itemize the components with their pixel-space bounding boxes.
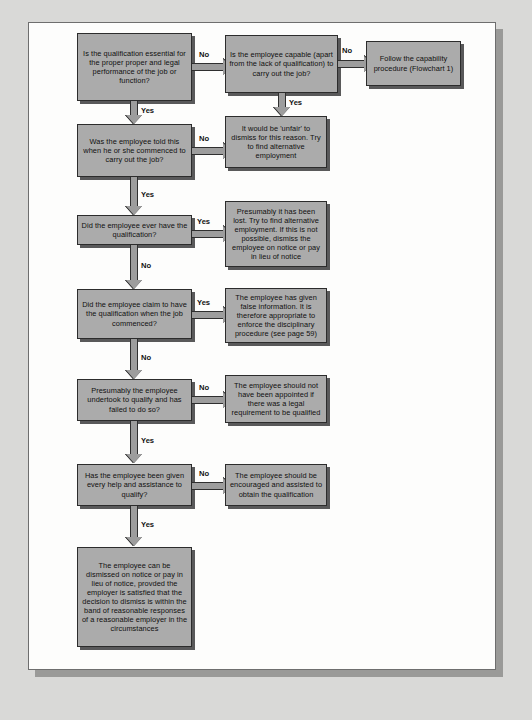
edge-label-q4-o4: Yes	[197, 298, 210, 307]
node-o4: The employee has given false information…	[225, 288, 327, 343]
node-o1: Follow the capability procedure (Flowcha…	[366, 41, 461, 86]
node-q1b-label: Is the employee capable (apart from the …	[229, 50, 334, 77]
edge-q4-o4-shaft	[192, 311, 224, 319]
edge-q5-o5-shaft	[192, 396, 224, 404]
node-o5: The employee should not have been appoin…	[225, 375, 327, 423]
node-q2: Was the employee told this when he or sh…	[77, 124, 192, 177]
edge-label-q2-q3: Yes	[141, 190, 154, 199]
node-q1: Is the qualification essential for the p…	[77, 33, 192, 101]
edge-q3-q4-head	[126, 280, 142, 289]
edge-label-q6-o6: No	[199, 469, 209, 478]
edge-label-q3-q4: No	[141, 261, 151, 270]
node-o6: The employee should be encouraged and as…	[225, 464, 327, 506]
node-o5-label: The employee should not have been appoin…	[229, 381, 323, 417]
node-q3: Did the employee ever have the qualifica…	[77, 215, 192, 245]
edge-q1b-o2-head	[274, 107, 290, 116]
edge-label-q1b-o2: Yes	[289, 98, 302, 107]
node-q5-label: Presumably the employee undertook to qua…	[81, 386, 188, 413]
node-q6-label: Has the employee been given every help a…	[81, 471, 188, 498]
node-o3-label: Presumably it has been lost. Try to find…	[229, 207, 323, 262]
edge-q1-q1b-shaft	[192, 63, 224, 71]
edge-label-q4-q5: No	[141, 353, 151, 362]
node-final: The employee can be dismissed on notice …	[77, 547, 192, 647]
edge-label-q1-q1b: No	[199, 50, 209, 59]
node-q6: Has the employee been given every help a…	[77, 464, 192, 506]
edge-q5-q6-shaft	[130, 421, 138, 455]
edge-q4-q5-head	[126, 370, 142, 379]
edge-q2-o2-shaft	[192, 147, 224, 155]
node-q4-label: Did the employee claim to have the quali…	[81, 300, 188, 327]
edge-label-q6-final: Yes	[141, 520, 154, 529]
node-q4: Did the employee claim to have the quali…	[77, 289, 192, 339]
edge-q1b-o1-shaft	[338, 60, 365, 68]
edge-q1b-o2-shaft	[278, 93, 286, 108]
node-o2-label: It would be 'unfair' to dismiss for this…	[229, 124, 323, 160]
node-o2: It would be 'unfair' to dismiss for this…	[225, 116, 327, 168]
node-q3-label: Did the employee ever have the qualifica…	[81, 221, 188, 239]
edge-q2-q3-shaft	[130, 177, 138, 207]
edge-q6-final-head	[126, 537, 142, 546]
edge-q1-q2-shaft	[130, 101, 138, 116]
edge-q3-q4-shaft	[130, 245, 138, 281]
node-q2-label: Was the employee told this when he or sh…	[81, 137, 188, 164]
edge-label-q3-o3: Yes	[197, 217, 210, 226]
edge-q3-o3-shaft	[192, 230, 224, 238]
node-q1-label: Is the qualification essential for the p…	[81, 49, 188, 85]
node-final-label: The employee can be dismissed on notice …	[81, 561, 188, 634]
node-o3: Presumably it has been lost. Try to find…	[225, 201, 327, 267]
node-o1-label: Follow the capability procedure (Flowcha…	[370, 54, 457, 72]
edge-q2-q3-head	[126, 206, 142, 215]
node-o6-label: The employee should be encouraged and as…	[229, 471, 323, 498]
node-o4-label: The employee has given false information…	[229, 293, 323, 338]
node-q5: Presumably the employee undertook to qua…	[77, 379, 192, 421]
edge-q1-q2-head	[126, 115, 142, 124]
edge-label-q5-o5: No	[199, 383, 209, 392]
edge-q6-final-shaft	[130, 506, 138, 538]
edge-label-q5-q6: Yes	[141, 436, 154, 445]
node-q1b: Is the employee capable (apart from the …	[225, 35, 338, 93]
edge-q6-o6-shaft	[192, 482, 224, 490]
flowchart-canvas: Is the qualification essential for the p…	[29, 23, 495, 669]
edge-label-q1-q2: Yes	[141, 106, 154, 115]
edge-label-q1b-o1: No	[342, 46, 352, 55]
edge-label-q2-o2: No	[199, 134, 209, 143]
edge-q4-q5-shaft	[130, 339, 138, 371]
edge-q5-q6-head	[126, 454, 142, 463]
document-page: Is the qualification essential for the p…	[28, 22, 496, 670]
